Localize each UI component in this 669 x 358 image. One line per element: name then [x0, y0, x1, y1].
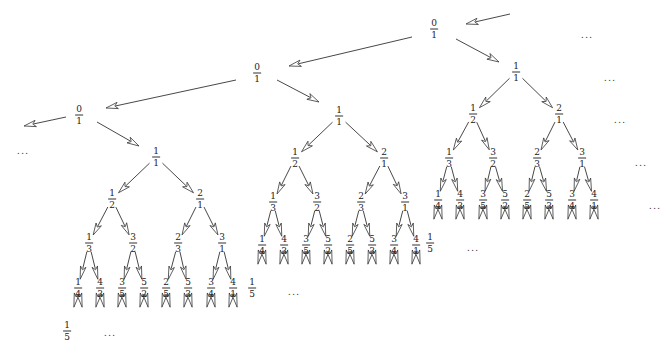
denominator: 1	[413, 246, 419, 256]
denominator: 1	[402, 203, 408, 213]
middle-tree-node: 34	[390, 235, 398, 256]
arrowhead-icon	[393, 182, 401, 194]
numerator: 4	[96, 278, 104, 289]
tree-arrow	[529, 167, 535, 191]
middle-tree-node: 14	[258, 235, 266, 256]
tree-arrow	[277, 166, 291, 194]
numerator: 3	[479, 190, 487, 201]
denominator: 2	[490, 159, 496, 169]
middle-tree-node: 32	[313, 192, 321, 213]
right-tree-ellipsis: ...	[467, 242, 480, 253]
middle-tree-node: 43	[280, 235, 288, 256]
denominator: 4	[435, 201, 441, 211]
denominator: 2	[502, 201, 508, 211]
right-tree-node: 35	[479, 190, 487, 211]
tree-arrow	[80, 252, 87, 280]
tree-arrow	[363, 211, 370, 237]
arrowhead-icon	[307, 94, 319, 102]
right-tree-node: 53	[545, 190, 553, 211]
tree-arrow	[541, 122, 555, 150]
chain-arrow	[277, 80, 319, 102]
denominator: 1	[76, 116, 82, 126]
denominator: 2	[292, 159, 298, 169]
denominator: 1	[219, 244, 225, 254]
tree-arrow	[522, 78, 552, 107]
right-tree-node: 52	[501, 190, 509, 211]
tree-arrow	[135, 252, 142, 280]
right-tree-root: 11	[512, 62, 520, 83]
arrowhead-icon	[487, 54, 499, 62]
arrowhead-icon	[121, 223, 129, 235]
left-tree-node: 23	[174, 233, 182, 254]
numerator: 1	[512, 62, 520, 73]
tree-arrow	[365, 166, 380, 194]
tree-arrow	[407, 211, 414, 237]
left-tree-node: 32	[129, 233, 137, 254]
arrowhead-icon	[570, 138, 578, 150]
denominator: 2	[470, 115, 476, 125]
arrowhead-icon	[93, 223, 101, 235]
denominator: 3	[369, 246, 375, 256]
right-tree-node: 21	[555, 104, 563, 125]
left-tree-ellipsis: ...	[104, 327, 117, 338]
numerator: 2	[555, 104, 563, 115]
tree-arrow	[308, 211, 315, 237]
tree-arrow	[213, 252, 220, 280]
left-tree-node: 35	[118, 278, 126, 299]
numerator: 3	[401, 192, 409, 203]
numerator: 2	[533, 148, 541, 159]
numerator: 1	[469, 104, 477, 115]
zero-node-zero-middle: 01	[253, 63, 261, 84]
denominator: 5	[163, 289, 169, 299]
numerator: 2	[196, 189, 204, 200]
denominator: 4	[391, 246, 397, 256]
numerator: 4	[412, 235, 420, 246]
right-tree-node: 34	[568, 190, 576, 211]
denominator: 3	[86, 244, 92, 254]
denominator: 5	[524, 201, 530, 211]
left-tree-node: 21	[196, 189, 204, 210]
tree-arrow	[224, 252, 231, 280]
numerator: 1	[248, 278, 256, 289]
tree-arrow	[264, 211, 271, 237]
left-tree-node: 14	[74, 278, 82, 299]
continuation-ellipsis: ...	[614, 114, 627, 125]
tree-arrow	[477, 122, 490, 150]
continuation-ellipsis: ...	[604, 72, 617, 83]
tree-arrow	[453, 122, 468, 150]
denominator: 5	[427, 244, 433, 254]
numerator: 4	[280, 235, 288, 246]
denominator: 3	[175, 244, 181, 254]
right-tree-node: 13	[445, 148, 453, 169]
left-tree-root: 11	[152, 147, 160, 168]
tree-arrow	[563, 122, 578, 150]
arrowhead-icon	[482, 138, 490, 150]
numerator: 1	[85, 233, 93, 244]
right-tree-node: 43	[456, 190, 464, 211]
left-tree-node: 15	[63, 321, 71, 342]
numerator: 1	[335, 106, 343, 117]
denominator: 1	[230, 289, 236, 299]
tree-arrow	[440, 167, 446, 192]
right-tree-node: 31	[578, 148, 586, 169]
middle-tree-node: 21	[380, 148, 388, 169]
denominator: 1	[254, 74, 260, 84]
numerator: 5	[140, 278, 148, 289]
left-tree-node: 12	[108, 189, 116, 210]
right-tree-node: 41	[590, 190, 598, 211]
numerator: 5	[501, 190, 509, 201]
right-tree-node: 25	[523, 190, 531, 211]
middle-tree-root: 11	[335, 106, 343, 127]
arrowhead-icon	[182, 223, 190, 235]
tree-arrow	[388, 166, 401, 194]
denominator: 2	[109, 200, 115, 210]
tree-arrow	[93, 207, 108, 235]
denominator: 3	[534, 159, 540, 169]
denominator: 5	[480, 201, 486, 211]
fraction-tree-diagram: 01010111122113322331144335522553344115..…	[0, 0, 669, 358]
continuation-ellipsis: ...	[635, 157, 648, 168]
numerator: 4	[456, 190, 464, 201]
tree-arrow	[163, 163, 194, 193]
tree-arrow	[204, 207, 218, 235]
numerator: 3	[578, 148, 586, 159]
